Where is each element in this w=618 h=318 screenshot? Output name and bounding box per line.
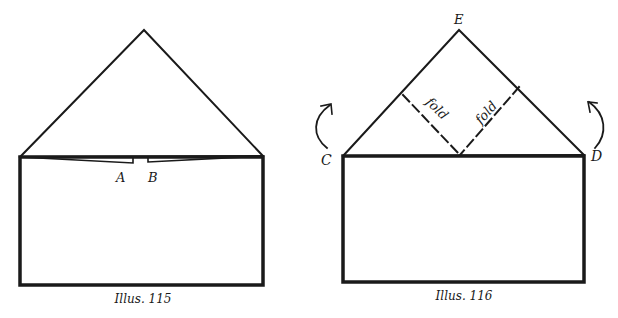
caption-115: Illus. 115 — [114, 292, 172, 306]
label-d: D — [590, 148, 602, 164]
caption-116: Illus. 116 — [435, 289, 493, 303]
rectangle-116 — [343, 156, 584, 282]
label-b: B — [147, 170, 158, 185]
label-c: C — [321, 152, 332, 168]
illustration-115 — [20, 30, 263, 285]
fold-label-right: fold — [471, 98, 500, 127]
label-a: A — [115, 170, 125, 185]
fold-label-left: fold — [422, 94, 451, 123]
rectangle-115 — [20, 157, 263, 285]
label-e: E — [453, 12, 464, 27]
curved-arrow-left-icon — [316, 105, 330, 148]
curved-arrow-right-icon — [589, 102, 603, 148]
diagram-canvas: A B Illus. 115 C D E fold fold Illus. 11… — [0, 0, 618, 318]
illustration-116 — [316, 30, 603, 282]
triangle-115 — [20, 30, 263, 157]
triangle-116 — [343, 30, 584, 156]
fold-line-right — [460, 87, 519, 155]
